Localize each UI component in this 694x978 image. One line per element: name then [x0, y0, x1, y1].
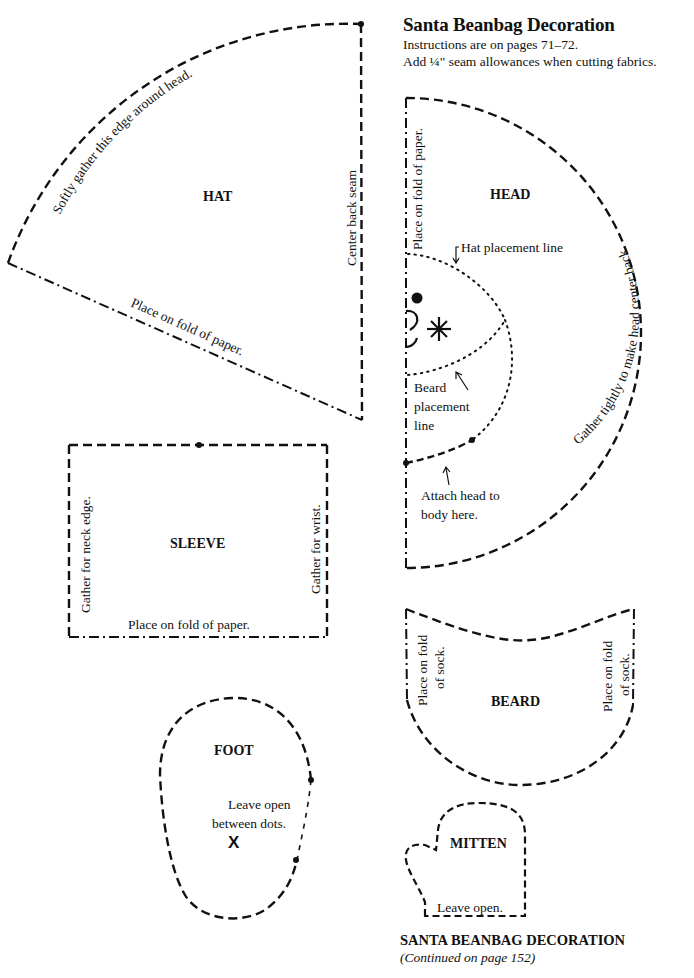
beard-placement-note-2: placement [414, 399, 470, 414]
hat-curved-edge [8, 24, 361, 263]
foot-open-dot-bottom [293, 857, 299, 863]
beard-left-note-2: of sock. [432, 646, 447, 689]
head-attach-edge [406, 440, 472, 463]
beard-placement-note-1: Beard [414, 380, 446, 395]
sleeve-fold-note: Place on fold of paper. [128, 617, 250, 632]
mitten-label: MITTEN [450, 836, 507, 851]
beard-right-note-1: Place on fold [600, 641, 615, 712]
beard-pattern-piece: BEARD Place on fold of sock. Place on fo… [406, 609, 634, 785]
beard-right-fold [633, 609, 634, 705]
foot-pattern-piece: FOOT Leave open between dots. X [160, 698, 314, 918]
foot-outline-open-gap [297, 780, 311, 860]
foot-open-note-1: Leave open [228, 797, 291, 812]
attach-end-dot [469, 437, 475, 443]
footer-continued-note: (Continued on page 152) [400, 949, 690, 966]
hat-gather-note: Softly gather this edge around head. [49, 65, 194, 216]
foot-open-dot-top [308, 777, 314, 783]
mitten-pattern-piece: MITTEN Leave open. [406, 803, 525, 916]
head-pattern-piece: HEAD Place on fold of paper. Gather tigh… [403, 98, 642, 568]
beard-left-note-1: Place on fold [415, 635, 430, 706]
foot-x-mark: X [228, 833, 240, 852]
hat-label: HAT [203, 189, 233, 204]
pattern-sheet: HAT Softly gather this edge around head.… [0, 0, 694, 978]
beard-placement-line [408, 320, 505, 375]
beard-right-note-2: of sock. [617, 653, 632, 696]
mouth-arc-icon [406, 338, 417, 347]
hat-pattern-piece: HAT Softly gather this edge around head.… [8, 21, 364, 420]
attach-arrow-icon [443, 467, 450, 485]
attach-note-2: body here. [421, 507, 478, 522]
cheek-asterisk-icon [427, 317, 451, 341]
head-gather-note: Gather tightly to make head center back. [570, 244, 642, 447]
hat-line-arrow-icon [453, 247, 459, 263]
mitten-open-note: Leave open. [437, 900, 503, 915]
hat-center-back-note: Center back seam [344, 170, 359, 266]
sleeve-label: SLEEVE [170, 536, 225, 551]
sleeve-pattern-piece: SLEEVE Gather for neck edge. Gather for … [69, 442, 327, 637]
beard-top-edge [406, 609, 634, 640]
attach-note-1: Attach head to [421, 488, 500, 503]
hat-placement-line [408, 254, 505, 320]
sleeve-neck-note: Gather for neck edge. [78, 496, 93, 613]
beard-label: BEARD [491, 694, 540, 709]
hat-center-back-seam [361, 24, 362, 420]
beard-placement-note-3: line [414, 418, 434, 433]
sleeve-wrist-note: Gather for wrist. [308, 504, 323, 594]
foot-label: FOOT [214, 743, 254, 758]
eye-dot-icon [412, 293, 423, 304]
nose-arc-icon [406, 311, 417, 330]
page-footer: SANTA BEANBAG DECORATION (Continued on p… [400, 932, 690, 966]
hat-placement-note: Hat placement line [461, 240, 563, 255]
head-fold-note: Place on fold of paper. [410, 128, 425, 250]
beard-line-arrow-icon [456, 372, 468, 390]
hat-fold-note: Place on fold of paper. [129, 295, 246, 358]
foot-open-note-2: between dots. [212, 816, 286, 831]
hat-corner-dot [358, 21, 364, 27]
hat-fold-edge [8, 263, 362, 420]
beard-left-fold [406, 609, 407, 700]
attach-start-dot [403, 460, 409, 466]
footer-title: SANTA BEANBAG DECORATION [400, 932, 690, 949]
sleeve-top-dot [196, 442, 202, 448]
head-label: HEAD [490, 187, 530, 202]
